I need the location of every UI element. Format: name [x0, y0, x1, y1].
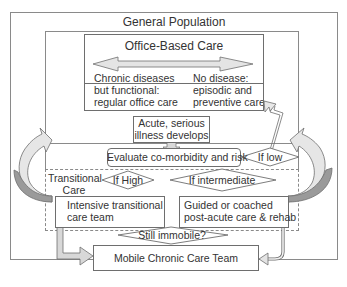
- mobile-chronic-care-label: Mobile Chronic Care Team: [93, 252, 259, 265]
- left-loop-arrow-icon: [14, 128, 52, 202]
- diagram-graphics: [0, 0, 347, 287]
- transitional-care-label-2: Care: [48, 184, 100, 197]
- still-immobile-label: Still immobile?: [130, 229, 214, 242]
- double-arrow-icon: [93, 57, 253, 71]
- if-intermediate-label: If intermediate: [180, 174, 264, 187]
- guided-line-1: Guided or coached: [184, 199, 273, 212]
- intensive-to-mobile-arrow-icon: [57, 227, 93, 265]
- return-arrow-icon: [264, 101, 283, 151]
- guided-line-2: post-acute care & rehab: [184, 211, 296, 224]
- if-high-label: If High: [104, 174, 152, 187]
- guided-to-mobile-arrow-icon: [259, 227, 283, 265]
- acute-line-1: Acute, serious: [133, 117, 210, 130]
- if-low-label: If low: [246, 151, 294, 164]
- intensive-line-2: care team: [67, 211, 114, 224]
- transitional-care-label-1: Transitional: [48, 172, 100, 185]
- intensive-line-1: Intensive transitional: [67, 199, 163, 212]
- acute-line-2: illness develops: [133, 129, 210, 142]
- evaluate-risk-label: Evaluate co-morbidity and risk: [107, 151, 241, 164]
- right-loop-arrow-icon: [288, 128, 332, 202]
